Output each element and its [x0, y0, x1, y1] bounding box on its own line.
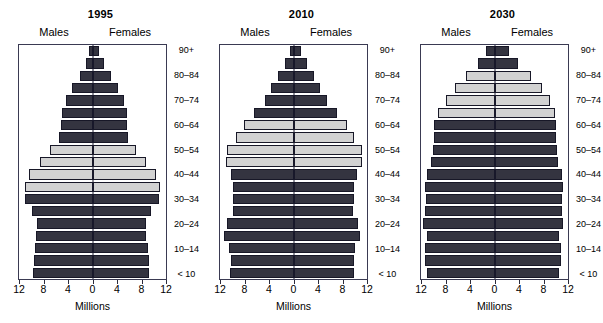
bar-males — [425, 182, 494, 192]
population-pyramid-figure: 1995MalesFemales128404812Millions90+80–8… — [0, 0, 603, 323]
bar-females — [294, 83, 321, 93]
age-axis-label: 30–34 — [170, 194, 203, 204]
bar-males — [224, 231, 293, 241]
bar-females — [93, 218, 146, 228]
bar-males — [25, 194, 92, 204]
plot-area — [219, 44, 368, 280]
bar-males — [80, 71, 93, 81]
bar-females — [495, 194, 562, 204]
bar-males — [278, 71, 293, 81]
age-axis-label: 30–34 — [572, 194, 603, 204]
bar-males — [25, 182, 93, 192]
bar-females — [294, 243, 356, 253]
x-axis-tick-label: 8 — [41, 283, 47, 295]
bar-females — [294, 108, 337, 118]
plot-area — [420, 44, 569, 280]
age-axis-label: 50–54 — [572, 145, 603, 155]
bar-females — [495, 58, 518, 68]
bar-females — [93, 169, 156, 179]
age-axis-label: 20–24 — [170, 219, 203, 229]
age-axis-label: 10–14 — [170, 244, 203, 254]
age-axis-label: 90+ — [170, 45, 203, 55]
age-axis-label: 20–24 — [371, 219, 404, 229]
bar-females — [495, 182, 564, 192]
bar-females — [294, 218, 358, 228]
bar-males — [426, 194, 495, 204]
x-axis-tick-label: 4 — [516, 283, 522, 295]
males-label: Males — [18, 26, 90, 38]
bar-females — [294, 182, 355, 192]
bar-females — [495, 145, 557, 155]
x-axis-tick-label: 8 — [139, 283, 145, 295]
bar-females — [93, 206, 151, 216]
bar-males — [59, 132, 93, 142]
age-axis-label: 40–44 — [371, 169, 404, 179]
bar-males — [236, 132, 294, 142]
x-axis-tick-label: 8 — [242, 283, 248, 295]
bar-females — [93, 46, 99, 56]
bar-females — [93, 182, 160, 192]
x-axis-tick-label: 12 — [214, 283, 226, 295]
age-axis-label: 50–54 — [371, 145, 404, 155]
bar-females — [294, 132, 354, 142]
bar-males — [61, 120, 93, 130]
bar-males — [466, 71, 494, 81]
x-axis-tick-label: 0 — [90, 283, 96, 295]
x-axis-title: Millions — [420, 300, 569, 312]
bar-males — [423, 218, 494, 228]
bar-males — [478, 58, 495, 68]
age-axis-label: < 10 — [170, 269, 203, 279]
bar-males — [446, 95, 495, 105]
bar-males — [244, 120, 294, 130]
x-axis-tick-label: 8 — [541, 283, 547, 295]
panel-title: 2030 — [402, 8, 603, 20]
bar-females — [495, 71, 531, 81]
bar-females — [294, 46, 302, 56]
bar-females — [495, 120, 556, 130]
bar-females — [93, 95, 125, 105]
plot-area — [18, 44, 167, 280]
age-axis-label: 70–74 — [170, 95, 203, 105]
bar-females — [93, 268, 150, 278]
bar-males — [233, 194, 294, 204]
females-label: Females — [92, 26, 168, 38]
bar-females — [93, 231, 147, 241]
bar-females — [294, 58, 307, 68]
bar-females — [495, 169, 562, 179]
bar-females — [495, 218, 564, 228]
bar-males — [32, 206, 92, 216]
x-axis-tick-label: 12 — [160, 283, 172, 295]
age-axis-label: 50–54 — [170, 145, 203, 155]
bar-females — [495, 46, 509, 56]
bar-males — [233, 182, 294, 192]
bar-males — [434, 132, 495, 142]
bar-females — [93, 71, 111, 81]
x-axis-title: Millions — [219, 300, 368, 312]
x-axis-tick-labels: 128404812 — [0, 283, 185, 297]
bar-females — [294, 95, 328, 105]
x-axis-tick-label: 0 — [492, 283, 498, 295]
bar-males — [36, 231, 92, 241]
bar-females — [294, 255, 354, 265]
age-axis-label: 10–14 — [572, 244, 603, 254]
x-axis-tick-label: 8 — [443, 283, 449, 295]
bar-females — [93, 243, 148, 253]
bar-females — [93, 255, 149, 265]
x-axis-tick-label: 4 — [114, 283, 120, 295]
age-axis-label: 20–24 — [572, 219, 603, 229]
bar-females — [294, 71, 315, 81]
bar-males — [433, 145, 495, 155]
age-axis-label: 90+ — [371, 45, 404, 55]
x-axis-tick-label: 4 — [467, 283, 473, 295]
age-axis-label: 60–64 — [170, 120, 203, 130]
age-axis-label: 60–64 — [371, 120, 404, 130]
bar-males — [37, 218, 92, 228]
bar-males — [425, 255, 495, 265]
age-axis-label: 40–44 — [170, 169, 203, 179]
bar-males — [66, 95, 93, 105]
bar-females — [93, 58, 105, 68]
bar-males — [62, 108, 93, 118]
age-axis-labels: 90+80–8470–7460–6450–5440–4430–3420–2410… — [170, 44, 203, 280]
bar-females — [495, 243, 562, 253]
bar-females — [495, 268, 560, 278]
